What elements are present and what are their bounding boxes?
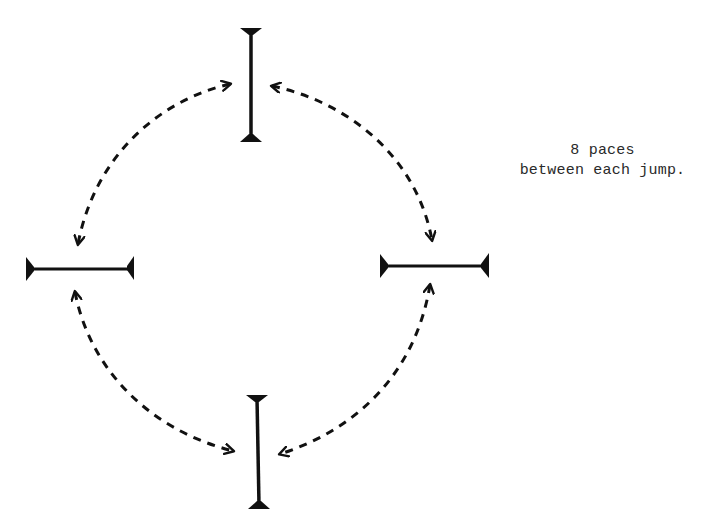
arrow-bottom-left <box>75 292 233 451</box>
arrow-top-right <box>272 86 432 240</box>
jump-left-right-stand <box>127 256 134 280</box>
arrow-bottom-right <box>280 285 430 454</box>
jump-top <box>240 28 262 142</box>
jump-left-left-stand <box>26 257 34 281</box>
jump-right <box>380 253 489 278</box>
jump-right-left-stand <box>380 254 388 278</box>
distance-note: 8 paces between each jump. <box>500 141 704 181</box>
jump-course-diagram <box>0 0 704 526</box>
note-line-2: between each jump. <box>500 161 704 181</box>
jump-bottom-upper-stand <box>246 395 268 402</box>
jump-left <box>26 256 134 281</box>
arrow-top-left <box>78 84 230 244</box>
jump-top-upper-stand <box>240 28 262 35</box>
jump-bottom-lower-stand <box>248 501 270 509</box>
jump-top-lower-stand <box>240 134 262 142</box>
jump-right-right-stand <box>481 253 489 278</box>
note-line-1: 8 paces <box>500 141 704 161</box>
jump-bottom <box>246 395 270 509</box>
